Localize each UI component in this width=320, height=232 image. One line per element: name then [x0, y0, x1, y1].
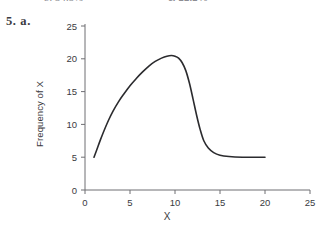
x-axis-title: X — [164, 211, 171, 222]
chart-series-line — [94, 56, 265, 158]
chart-axes — [85, 24, 310, 190]
y-axis-title: Frequency of X — [34, 81, 45, 147]
chart-svg: 05101520250510152025 — [0, 0, 320, 232]
svg-text:0: 0 — [72, 185, 77, 196]
y-axis-title-wrap: Frequency of X — [30, 56, 48, 172]
svg-text:10: 10 — [66, 119, 77, 130]
x-axis-title-wrap: X — [0, 211, 320, 222]
svg-text:10: 10 — [170, 197, 181, 208]
frequency-distribution-chart: 05101520250510152025 Frequency of X X — [0, 0, 320, 232]
svg-text:15: 15 — [215, 197, 226, 208]
chart-tick-labels: 05101520250510152025 — [66, 21, 315, 209]
svg-text:20: 20 — [66, 53, 77, 64]
svg-text:15: 15 — [66, 86, 77, 97]
svg-text:0: 0 — [82, 197, 87, 208]
scanned-page: b. 34.5% c. 22.2% 5. a. 0510152025051015… — [0, 0, 320, 232]
svg-text:5: 5 — [72, 152, 77, 163]
chart-series-group — [94, 56, 265, 158]
svg-text:20: 20 — [260, 197, 271, 208]
svg-text:25: 25 — [305, 197, 316, 208]
svg-text:25: 25 — [66, 21, 77, 32]
svg-text:5: 5 — [127, 197, 132, 208]
